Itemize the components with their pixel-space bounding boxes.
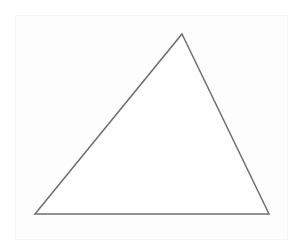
triangle-diagram bbox=[0, 0, 302, 250]
triangle-shape bbox=[35, 34, 269, 214]
